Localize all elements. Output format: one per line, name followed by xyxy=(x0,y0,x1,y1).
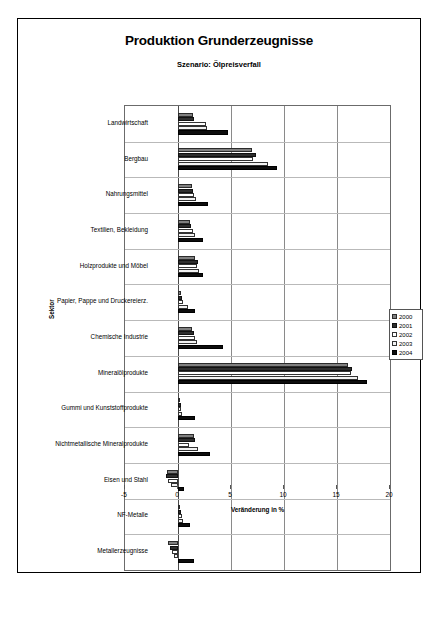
x-axis-title: Veränderung in % xyxy=(124,506,391,513)
bar xyxy=(178,452,210,456)
chart-legend: 20002001200220032004 xyxy=(389,309,423,360)
bar xyxy=(178,523,190,527)
row-separator xyxy=(125,142,390,143)
bar xyxy=(178,269,199,273)
bar xyxy=(178,519,183,523)
row-separator xyxy=(125,499,390,500)
row-separator xyxy=(125,356,390,357)
category-label: Nichtmetallische Mineralprodukte xyxy=(55,441,148,447)
legend-item: 2002 xyxy=(392,330,420,339)
gridline xyxy=(284,106,285,570)
legend-item: 2000 xyxy=(392,312,420,321)
bar xyxy=(178,371,351,375)
category-label: NF-Metalle xyxy=(117,512,148,518)
bar xyxy=(178,256,195,260)
chart-title: Produktion Grunderzeugnisse xyxy=(18,33,420,48)
bar xyxy=(178,398,180,402)
row-separator xyxy=(125,463,390,464)
bar xyxy=(178,162,268,166)
bar xyxy=(178,260,198,264)
legend-item: 2004 xyxy=(392,348,420,357)
bar xyxy=(178,189,193,193)
row-separator xyxy=(125,534,390,535)
bar xyxy=(178,309,195,313)
bar xyxy=(170,546,178,550)
gridline xyxy=(231,106,232,570)
row-separator xyxy=(125,284,390,285)
bar xyxy=(178,117,194,121)
bar xyxy=(178,184,192,188)
bar xyxy=(178,305,188,309)
x-tick-mark xyxy=(283,485,284,489)
bar xyxy=(178,514,182,518)
bar xyxy=(178,340,197,344)
bar xyxy=(178,264,197,268)
legend-label: 2004 xyxy=(399,350,412,356)
bar xyxy=(178,300,183,304)
bar xyxy=(178,273,203,277)
row-separator xyxy=(125,249,390,250)
x-tick-mark xyxy=(336,485,337,489)
chart-frame: Produktion Grunderzeugnisse Szenario: Öl… xyxy=(17,18,421,573)
bar xyxy=(178,412,182,416)
legend-swatch-icon xyxy=(392,350,397,355)
legend-item: 2001 xyxy=(392,321,420,330)
bar xyxy=(178,153,256,157)
bar xyxy=(178,380,367,384)
plot-area xyxy=(124,105,391,571)
category-label: Mineralölprodukte xyxy=(98,370,148,376)
bar xyxy=(168,479,178,483)
bar xyxy=(178,238,203,242)
row-separator xyxy=(125,392,390,393)
legend-label: 2003 xyxy=(399,341,412,347)
x-tick-label: -5 xyxy=(109,491,139,498)
category-label: Bergbau xyxy=(124,156,148,162)
x-tick-label: 20 xyxy=(374,491,404,498)
category-label: Holzprodukte und Möbel xyxy=(80,263,148,269)
legend-label: 2001 xyxy=(399,323,412,329)
legend-label: 2000 xyxy=(399,314,412,320)
bar xyxy=(178,126,207,130)
bar xyxy=(178,407,181,411)
legend-item: 2003 xyxy=(392,339,420,348)
bar xyxy=(178,233,195,237)
category-label: Eisen und Stahl xyxy=(104,477,148,483)
bar xyxy=(178,291,181,295)
bar xyxy=(178,296,182,300)
category-label: Metallerzeugnisse xyxy=(97,548,148,554)
bar xyxy=(178,202,208,206)
category-label: Papier, Pappe und Druckereierz. xyxy=(57,298,148,304)
bar xyxy=(172,550,178,554)
bar xyxy=(178,443,189,447)
chart-subtitle: Szenario: Ölpreisverfall xyxy=(18,60,420,69)
bar xyxy=(174,554,178,558)
bar xyxy=(178,367,352,371)
x-tick-mark xyxy=(124,485,125,489)
row-separator xyxy=(125,177,390,178)
bar xyxy=(178,559,194,563)
bar xyxy=(178,130,228,134)
x-tick-mark xyxy=(177,485,178,489)
bar xyxy=(178,157,253,161)
x-tick-label: 5 xyxy=(215,491,245,498)
bar xyxy=(178,416,195,420)
row-separator xyxy=(125,320,390,321)
bar xyxy=(178,363,348,367)
bar xyxy=(178,345,223,349)
bar xyxy=(178,327,192,331)
category-label: Nahrungsmittel xyxy=(106,191,148,197)
bar xyxy=(178,122,206,126)
bar xyxy=(178,331,194,335)
x-tick-mark xyxy=(389,485,390,489)
category-label: Textilien, Bekleidung xyxy=(91,227,148,233)
bar xyxy=(167,470,178,474)
bar xyxy=(178,193,194,197)
bar xyxy=(178,220,190,224)
bar xyxy=(178,197,196,201)
category-label: Gummi und Kunststoffprodukte xyxy=(61,405,148,411)
bar xyxy=(178,148,252,152)
bar xyxy=(178,438,195,442)
bar xyxy=(178,403,181,407)
bar xyxy=(178,224,191,228)
row-separator xyxy=(125,427,390,428)
